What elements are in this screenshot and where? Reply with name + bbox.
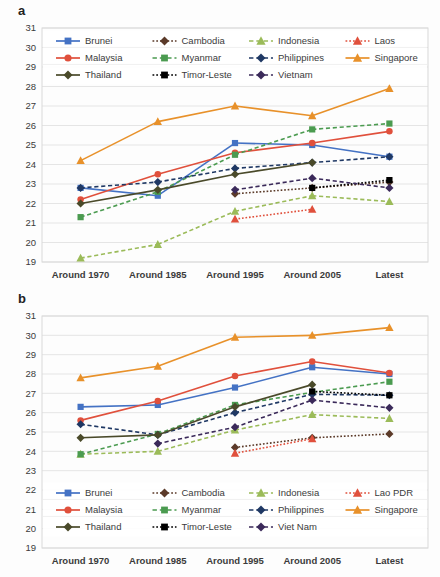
data-point-singapore [385, 84, 393, 92]
legend-label: Indonesia [278, 35, 320, 46]
legend-label: Brunei [85, 487, 112, 498]
legend-marker [161, 55, 168, 62]
data-point-brunei [232, 140, 238, 146]
series-viet-nam [154, 396, 394, 448]
data-point-myanmar [78, 451, 84, 457]
data-point-cambodia [385, 430, 393, 438]
chart-legend: BruneiCambodiaIndonesiaLao PDRMalaysiaMy… [43, 482, 427, 536]
series-line-segment [312, 415, 389, 419]
panel-label-a: a [18, 3, 25, 18]
x-axis-tick-label: Latest [375, 269, 404, 280]
series-line-segment [158, 430, 235, 451]
data-point-vietnam [385, 184, 393, 192]
data-point-viet-nam [154, 440, 162, 448]
legend-label: Brunei [85, 35, 112, 46]
series-line-segment [81, 405, 158, 407]
legend-label: Myanmar [182, 52, 222, 63]
y-axis-tick-label: 24 [25, 446, 36, 457]
legend-marker [65, 38, 72, 45]
y-axis-tick-label: 22 [25, 198, 36, 209]
data-point-malaysia [386, 128, 393, 135]
series-line-segment [158, 388, 235, 405]
data-point-philippines [154, 178, 162, 186]
data-point-lao-pdr [231, 449, 239, 457]
y-axis-tick-label: 21 [25, 217, 36, 228]
legend-label: Philippines [278, 52, 324, 63]
series-line-segment [158, 211, 235, 244]
series-line-segment [235, 163, 312, 169]
data-point-singapore [76, 156, 84, 164]
series-singapore [76, 323, 393, 381]
legend-label: Lao PDR [375, 487, 414, 498]
legend-label: Cambodia [182, 35, 226, 46]
panel-label-b: b [18, 291, 26, 306]
data-point-timor-leste [309, 185, 315, 191]
data-point-laos [308, 205, 316, 213]
y-axis-tick-label: 20 [25, 523, 36, 534]
series-line-segment [81, 244, 158, 258]
data-point-myanmar [232, 152, 238, 158]
data-point-indonesia [385, 414, 393, 422]
series-line-segment [312, 434, 389, 438]
series-line-segment [158, 155, 235, 192]
series-line-segment [312, 196, 389, 202]
series-line-segment [312, 328, 389, 336]
data-point-thailand [308, 158, 316, 166]
chart-legend: BruneiCambodiaIndonesiaLaosMalaysiaMyanm… [43, 30, 427, 84]
y-axis-tick-label: 28 [25, 81, 36, 92]
data-point-vietnam [308, 174, 316, 182]
y-axis-tick-label: 22 [25, 484, 36, 495]
series-line-segment [312, 131, 389, 143]
legend-label: Philippines [278, 504, 324, 515]
chart-panel-a: a 19202122232425262728293031Around 1970A… [0, 0, 440, 290]
x-axis-tick-label: Around 1970 [52, 555, 110, 566]
y-axis-tick-label: 30 [25, 330, 36, 341]
y-axis-tick-label: 25 [25, 139, 36, 150]
chart-a-plot-area: 19202122232425262728293031Around 1970Aro… [0, 20, 440, 290]
legend-label: Thailand [85, 69, 121, 80]
legend-marker [64, 506, 71, 513]
legend-label: Malaysia [85, 52, 123, 63]
x-axis-tick-label: Around 1995 [206, 269, 264, 280]
data-point-malaysia [232, 373, 239, 380]
y-axis-tick-label: 27 [25, 388, 36, 399]
y-axis-tick-label: 21 [25, 504, 36, 515]
y-axis-tick-label: 29 [25, 61, 36, 72]
series-line-segment [158, 153, 235, 174]
series-line-segment [312, 88, 389, 115]
series-laos [231, 205, 317, 223]
data-point-viet-nam [385, 404, 393, 412]
data-point-myanmar [386, 379, 392, 385]
data-point-myanmar [386, 120, 392, 126]
legend-label: Laos [375, 35, 396, 46]
chart-b-plot-area: 19202122232425262728293031Around 1970Aro… [0, 308, 440, 576]
data-point-laos [231, 215, 239, 223]
y-axis-tick-label: 23 [25, 178, 36, 189]
series-thailand [77, 381, 317, 442]
x-axis-tick-label: Around 1985 [129, 269, 187, 280]
series-line-segment [81, 435, 158, 438]
y-axis-tick-label: 31 [25, 22, 36, 33]
series-line-segment [312, 394, 389, 395]
series-line-segment [81, 424, 158, 435]
series-line-segment [158, 405, 235, 434]
legend-label: Singapore [375, 504, 418, 515]
legend-label: Vietnam [278, 69, 313, 80]
legend-label: Timor-Leste [182, 69, 232, 80]
y-axis-tick-label: 27 [25, 100, 36, 111]
x-axis-tick-label: Around 2005 [283, 555, 341, 566]
y-axis-tick-label: 23 [25, 465, 36, 476]
series-line-segment [235, 415, 312, 430]
y-axis-tick-label: 26 [25, 407, 36, 418]
figure-container: a 19202122232425262728293031Around 1970A… [0, 0, 440, 577]
data-point-brunei [309, 364, 315, 370]
series-line-segment [158, 337, 235, 366]
data-point-thailand [308, 381, 316, 389]
x-axis-tick-label: Latest [375, 555, 404, 566]
series-line-segment [312, 382, 389, 393]
series-line-segment [235, 209, 312, 219]
data-point-myanmar [309, 126, 315, 132]
data-point-brunei [232, 384, 238, 390]
series-line-segment [312, 400, 389, 408]
x-axis-tick-label: Around 1995 [206, 555, 264, 566]
